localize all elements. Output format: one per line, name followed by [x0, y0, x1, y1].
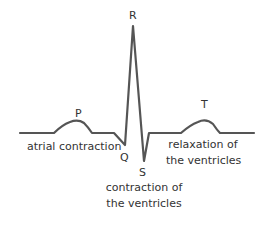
wave-label-s: S — [139, 166, 146, 179]
ventricular-contraction-label: contraction of the ventricles — [97, 181, 191, 210]
ventricular-relaxation-line2: the ventricles — [166, 154, 240, 167]
ventricular-contraction-line1: contraction of — [97, 181, 191, 194]
ventricular-relaxation-label: relaxation of the ventricles — [166, 138, 240, 167]
ventricular-contraction-line2: the ventricles — [97, 197, 191, 210]
wave-label-r: R — [129, 9, 137, 22]
ventricular-relaxation-line1: relaxation of — [166, 138, 240, 151]
wave-label-p: P — [75, 107, 82, 120]
atrial-contraction-label: atrial contraction — [27, 140, 121, 153]
wave-label-t: T — [201, 98, 208, 111]
